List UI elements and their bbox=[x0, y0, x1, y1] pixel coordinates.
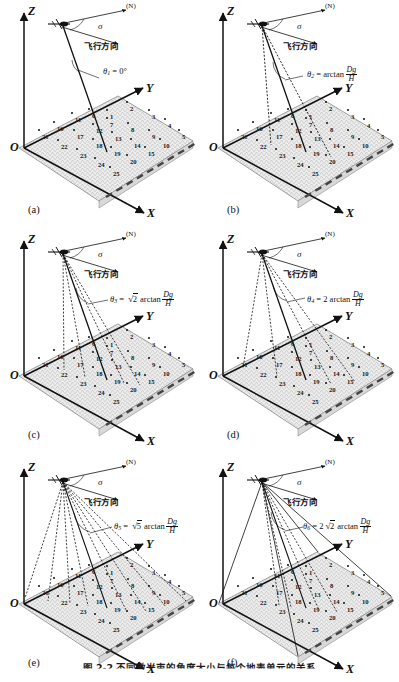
north-label: (N) bbox=[126, 459, 136, 466]
terrain-cell-number: 9 bbox=[351, 361, 354, 368]
sigma-label: σ bbox=[297, 22, 301, 31]
terrain-cell-number: 22 bbox=[260, 371, 267, 378]
terrain-cell-number: 15 bbox=[347, 150, 354, 157]
terrain-cell-number: 1 bbox=[110, 113, 113, 120]
theta-value: 0° bbox=[119, 66, 127, 76]
terrain-cell-number: 5 bbox=[381, 361, 384, 368]
cell-marker-dot bbox=[270, 568, 272, 570]
cell-marker-dot bbox=[363, 574, 365, 576]
cell-marker-dot bbox=[178, 585, 180, 587]
terrain-cell-number: 25 bbox=[113, 398, 120, 405]
aircraft-icon bbox=[247, 475, 269, 485]
cell-marker-dot bbox=[88, 108, 90, 110]
north-label: (N) bbox=[126, 231, 136, 238]
terrain-cell-number: 23 bbox=[279, 380, 286, 387]
cell-marker-dot bbox=[53, 349, 55, 351]
theta-index: 5 bbox=[118, 525, 121, 531]
terrain-cell-number: 7 bbox=[110, 349, 113, 356]
terrain-cell-number: 7 bbox=[110, 577, 113, 584]
terrain-cell-number: 5 bbox=[182, 133, 185, 140]
cell-marker-dot bbox=[159, 594, 161, 596]
terrain-cell-number: 7 bbox=[309, 121, 312, 128]
terrain-cell-number: 3 bbox=[351, 569, 354, 576]
theta-index: 3 bbox=[114, 298, 117, 304]
theta-index: 2 bbox=[311, 73, 314, 79]
cell-marker-dot bbox=[310, 359, 312, 361]
figure-root: Z Y X O (N) σ 飞行方向 (a) θ1 = 0° 123456789… bbox=[0, 0, 399, 682]
terrain-cell-number: 10 bbox=[362, 370, 369, 377]
cell-marker-dot bbox=[144, 374, 146, 376]
cell-marker-dot bbox=[94, 613, 96, 615]
equation-e: θ5 = 5 arctanDgH bbox=[114, 518, 178, 536]
terrain-cell-number: 20 bbox=[329, 614, 336, 621]
terrain-cell-number: 23 bbox=[279, 608, 286, 615]
radical-icon: 2 bbox=[126, 294, 138, 304]
terrain-cell-number: 18 bbox=[295, 370, 302, 377]
terrain-cell-number: 1 bbox=[309, 113, 312, 120]
sigma-label: σ bbox=[98, 22, 102, 31]
axis-label-origin: O bbox=[209, 597, 218, 609]
h-denominator: H bbox=[360, 527, 372, 536]
cell-marker-dot bbox=[358, 366, 360, 368]
terrain-cell-number: 4 bbox=[367, 578, 370, 585]
sigma-label: σ bbox=[297, 250, 301, 259]
terrain-cell-number: 5 bbox=[381, 589, 384, 596]
axis-label-z: Z bbox=[227, 5, 234, 17]
terrain-cell-number: 24 bbox=[98, 617, 105, 624]
terrain-cell-number: 15 bbox=[148, 378, 155, 385]
terrain-cell-number: 2 bbox=[130, 333, 133, 340]
terrain-surface bbox=[218, 552, 392, 664]
cell-marker-dot bbox=[148, 565, 150, 567]
terrain-cell-number: 1 bbox=[309, 569, 312, 576]
cell-marker-dot bbox=[106, 565, 108, 567]
h-denominator: H bbox=[346, 75, 358, 84]
cell-marker-dot bbox=[291, 594, 293, 596]
terrain-cell-number: 15 bbox=[148, 606, 155, 613]
terrain-cell-number: 17 bbox=[276, 133, 283, 140]
terrain-cell-number: 22 bbox=[260, 143, 267, 150]
terrain-cell-number: 17 bbox=[276, 361, 283, 368]
aircraft-icon bbox=[247, 19, 269, 29]
terrain-cell-number: 15 bbox=[347, 378, 354, 385]
coefficient: 2 bbox=[323, 294, 327, 304]
sigma-label: σ bbox=[98, 250, 102, 259]
sigma-label: σ bbox=[98, 478, 102, 487]
terrain-cell-number: 13 bbox=[314, 135, 321, 142]
cell-marker-dot bbox=[293, 157, 295, 159]
cell-marker-dot bbox=[148, 337, 150, 339]
cell-marker-dot bbox=[57, 595, 59, 597]
terrain-cell-number: 2 bbox=[130, 561, 133, 568]
cell-marker-dot bbox=[127, 578, 129, 580]
terrain-cell-number: 14 bbox=[333, 598, 340, 605]
cell-marker-dot bbox=[347, 585, 349, 587]
terrain-cell-number: 24 bbox=[297, 389, 304, 396]
arctan-label: arctan bbox=[337, 521, 358, 531]
cell-marker-dot bbox=[256, 367, 258, 369]
cell-marker-dot bbox=[272, 357, 274, 359]
arctan-label: arctan bbox=[144, 521, 165, 531]
radicand: 2 bbox=[330, 520, 335, 531]
cell-marker-dot bbox=[144, 602, 146, 604]
terrain-cell-number: 25 bbox=[113, 626, 120, 633]
cell-marker-dot bbox=[130, 138, 132, 140]
dg-over-h: DgH bbox=[162, 291, 174, 309]
terrain-cell-number: 15 bbox=[148, 150, 155, 157]
cell-marker-dot bbox=[326, 122, 328, 124]
aircraft-icon bbox=[48, 19, 70, 29]
cell-marker-dot bbox=[92, 579, 94, 581]
terrain-cell-number: 21 bbox=[241, 361, 248, 368]
terrain-cell-number: 20 bbox=[329, 386, 336, 393]
cell-marker-dot bbox=[309, 374, 311, 376]
arctan-label: arctan bbox=[140, 294, 161, 304]
terrain-cell-number: 11 bbox=[274, 572, 280, 579]
terrain-cell-number: 12 bbox=[96, 355, 103, 362]
terrain-cell-number: 4 bbox=[367, 122, 370, 129]
cell-marker-dot bbox=[270, 340, 272, 342]
terrain-cell-number: 8 bbox=[131, 126, 134, 133]
axis-label-x: X bbox=[147, 435, 155, 447]
terrain-cell-number: 18 bbox=[96, 598, 103, 605]
panel-f-diagram bbox=[199, 455, 399, 682]
terrain-cell-number: 22 bbox=[61, 371, 68, 378]
cell-marker-dot bbox=[106, 345, 108, 347]
equation-f: θ6 = 22 arctanDgH bbox=[303, 518, 371, 536]
